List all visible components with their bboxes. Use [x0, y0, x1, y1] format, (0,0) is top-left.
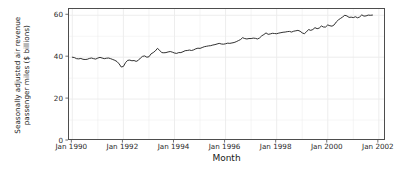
x-tick-label: Jan 1994 — [158, 142, 190, 151]
x-tick-label: Jan 2000 — [311, 142, 343, 151]
y-axis-title-line1: Seasonally adjusted air revenue — [13, 17, 22, 134]
y-axis-title-line2: passenger miles ($ billions) — [22, 17, 31, 134]
y-tick-label: 20 — [44, 94, 63, 103]
plot-panel — [68, 8, 385, 140]
grid-minor-lines — [69, 9, 385, 140]
y-tick-label: 40 — [44, 52, 63, 61]
x-tick-label: Jan 1998 — [260, 142, 292, 151]
x-tick-label: Jan 2002 — [362, 142, 394, 151]
x-axis-title: Month — [68, 153, 385, 163]
chart-figure: Seasonally adjusted air revenue passenge… — [0, 0, 419, 178]
y-tick-label: 60 — [44, 10, 63, 19]
grid-major-lines — [69, 9, 385, 140]
x-tick-label: Jan 1992 — [107, 142, 139, 151]
x-tick-label: Jan 1996 — [209, 142, 241, 151]
x-tick-label: Jan 1990 — [55, 142, 87, 151]
y-axis-title: Seasonally adjusted air revenue passenge… — [0, 0, 44, 150]
plot-area — [69, 9, 385, 140]
